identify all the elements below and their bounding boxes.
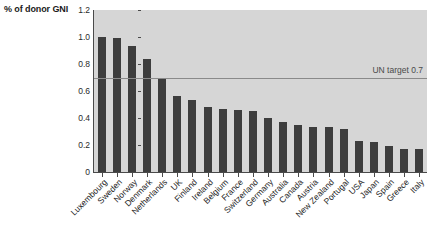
donor-gni-bar-chart: % of donor GNI 00.20.40.60.81.01.2 UN ta… [0, 0, 439, 234]
x-axis-category-labels: LuxembourgSwedenNorwayDenmarkNetherlands… [0, 0, 439, 234]
